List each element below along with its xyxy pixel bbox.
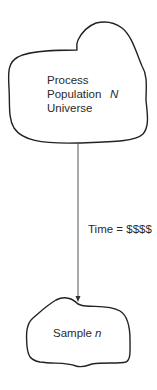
- population-line-3: Universe: [47, 102, 92, 114]
- population-node: Process Population N Universe: [9, 22, 148, 143]
- sample-symbol: n: [95, 327, 101, 339]
- sample-node: Sample n: [27, 298, 131, 367]
- population-line-2: Population: [47, 88, 101, 100]
- population-symbol: N: [110, 88, 119, 100]
- sampling-diagram: Process Population N Universe Time = $$$…: [0, 0, 157, 390]
- edge-label: Time = $$$$: [88, 223, 152, 235]
- sample-label: Sample: [53, 327, 92, 339]
- arrowhead-icon: [76, 296, 81, 302]
- population-line-1: Process: [47, 74, 89, 86]
- time-cost-edge: Time = $$$$: [76, 143, 153, 302]
